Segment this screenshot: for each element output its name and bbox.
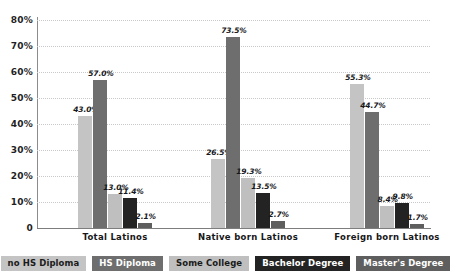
bar-value-label: 19.3% (236, 167, 262, 176)
bar-value-label: 2.7% (269, 210, 289, 219)
bar[interactable]: 13.0% (108, 194, 122, 228)
chart-legend: no HS DiplomaHS DiplomaSome CollegeBache… (0, 254, 451, 272)
x-axis-category-label: Total Latinos (82, 232, 147, 242)
y-axis-tick-label: 70% (3, 41, 33, 51)
legend-item[interactable]: Bachelor Degree (255, 256, 350, 271)
bar[interactable]: 26.5% (211, 159, 225, 228)
y-axis-labels: 80%70%60%50%40%30%20%10%0 (0, 20, 33, 228)
bar[interactable]: 8.4% (380, 206, 394, 228)
bar-chart: 80%70%60%50%40%30%20%10%0 43.0%57.0%13.0… (0, 0, 451, 276)
bar-group: 43.0%57.0%13.0%11.4%2.1% (78, 20, 152, 228)
bar-value-label: 13.5% (251, 182, 277, 191)
y-axis-tick-label: 10% (3, 197, 33, 207)
x-axis-category-label: Foreign born Latinos (334, 232, 439, 242)
bar-value-label: 57.0% (88, 69, 114, 78)
bar[interactable]: 73.5% (226, 37, 240, 228)
bar-group: 26.5%73.5%19.3%13.5%2.7% (211, 20, 285, 228)
bar-value-label: 1.7% (408, 213, 428, 222)
bar-value-label: 9.8% (393, 192, 413, 201)
bar[interactable]: 44.7% (365, 112, 379, 228)
legend-item[interactable]: HS Diploma (92, 256, 163, 271)
x-axis-category-label: Native born Latinos (198, 232, 298, 242)
y-axis-tick-label: 30% (3, 145, 33, 155)
legend-item[interactable]: Some College (169, 256, 249, 271)
bar[interactable]: 43.0% (78, 116, 92, 228)
bar[interactable]: 57.0% (93, 80, 107, 228)
y-axis-tick-label: 20% (3, 171, 33, 181)
y-axis-tick-label: 40% (3, 119, 33, 129)
bar-value-label: 11.4% (118, 187, 144, 196)
bar-value-label: 73.5% (221, 26, 247, 35)
bar-group: 55.3%44.7%8.4%9.8%1.7% (350, 20, 424, 228)
plot-area: 43.0%57.0%13.0%11.4%2.1%26.5%73.5%19.3%1… (37, 20, 430, 228)
bar-value-label: 2.1% (136, 212, 156, 221)
bar-value-label: 44.7% (360, 101, 386, 110)
bar[interactable]: 2.7% (271, 221, 285, 228)
y-axis-tick-label: 60% (3, 67, 33, 77)
bar-value-label: 55.3% (345, 73, 371, 82)
legend-item[interactable]: Master's Degree (356, 256, 450, 271)
y-axis-tick-label: 80% (3, 15, 33, 25)
y-axis-tick-label: 0 (3, 223, 33, 233)
x-axis-line (37, 228, 431, 229)
legend-item[interactable]: no HS Diploma (1, 256, 87, 271)
y-axis-tick-label: 50% (3, 93, 33, 103)
